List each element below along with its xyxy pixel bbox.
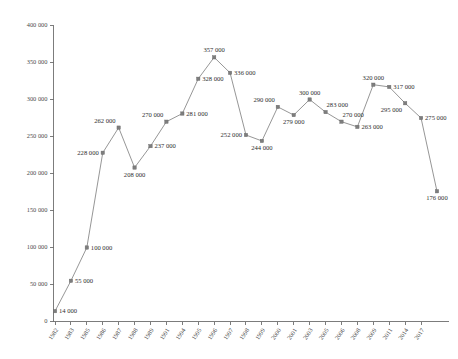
data-marker [308,98,311,101]
data-marker [356,125,359,128]
y-tick-label: 200 000 [27,169,48,176]
data-point-label: 237 000 [154,142,176,149]
data-marker [403,102,406,105]
data-point-label: 279 000 [283,118,305,125]
data-point-label: 228 000 [77,149,99,156]
data-point-label: 283 000 [327,101,349,108]
data-point-label: 263 000 [361,123,383,130]
data-point-label: 357 000 [203,46,225,53]
y-tick-label: 100 000 [27,243,48,250]
data-marker [276,105,279,108]
data-marker [260,139,263,142]
data-marker [244,133,247,136]
data-point-label: 320 000 [363,74,385,81]
y-tick-label: 0 [44,317,47,324]
data-marker [228,71,231,74]
data-point-label: 176 000 [426,194,448,201]
data-point-label: 317 000 [393,83,415,90]
data-point-label: 208 000 [124,171,146,178]
y-tick-label: 350 000 [27,58,48,65]
data-marker [165,120,168,123]
chart-canvas: 050 000100 000150 000200 000250 000300 0… [0,0,458,359]
data-point-label: 270 000 [342,111,364,118]
data-point-label: 275 000 [425,114,447,121]
data-point-label: 281 000 [186,110,208,117]
data-point-label: 100 000 [91,244,113,251]
data-point-label: 252 000 [221,131,243,138]
data-point-label: 262 000 [94,117,116,124]
line-chart: 050 000100 000150 000200 000250 000300 0… [0,0,458,359]
data-marker [69,279,72,282]
data-point-label: 55 000 [75,277,94,284]
data-marker [212,56,215,59]
data-point-label: 336 000 [234,69,256,76]
data-marker [292,113,295,116]
data-marker [117,126,120,129]
data-marker [435,190,438,193]
chart-background [0,0,458,359]
data-marker [149,144,152,147]
data-point-label: 290 000 [253,96,275,103]
data-point-label: 14 000 [59,307,78,314]
data-marker [372,83,375,86]
data-marker [181,112,184,115]
y-tick-label: 50 000 [30,280,48,287]
data-marker [85,246,88,249]
data-point-label: 328 000 [202,75,224,82]
data-point-label: 300 000 [299,89,321,96]
y-tick-label: 150 000 [27,206,48,213]
data-marker [133,166,136,169]
data-marker [419,116,422,119]
y-tick-label: 400 000 [27,21,48,28]
data-marker [388,85,391,88]
data-point-label: 270 000 [142,111,164,118]
data-point-label: 244 000 [251,144,273,151]
data-marker [324,110,327,113]
data-marker [340,120,343,123]
data-point-label: 295 000 [381,106,403,113]
data-marker [53,309,56,312]
y-tick-label: 250 000 [27,132,48,139]
y-tick-label: 300 000 [27,95,48,102]
data-marker [101,151,104,154]
data-marker [197,77,200,80]
